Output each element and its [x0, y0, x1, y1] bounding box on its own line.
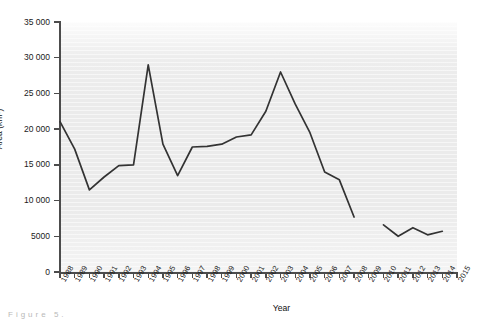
data-line-segment-1	[60, 65, 354, 217]
caption-fragment: Figure 5.	[8, 310, 67, 319]
data-line-segment-2	[383, 225, 442, 236]
